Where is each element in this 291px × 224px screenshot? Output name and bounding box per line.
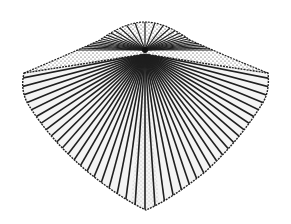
brachiopod-shell-illustration [0, 0, 291, 224]
beak [142, 47, 148, 53]
